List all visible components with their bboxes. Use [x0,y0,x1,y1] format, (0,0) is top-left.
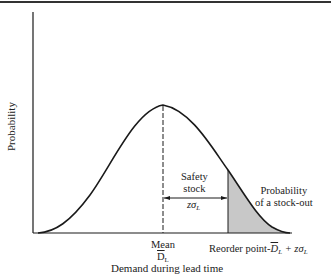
z-sigma-sub: L [196,204,200,212]
reorder-suffix: + zσ [282,243,304,254]
safety-stock-label: Safety stock [181,171,208,195]
mean-text: Mean [151,239,175,251]
reorder-symbol: D [271,243,279,254]
stockout-probability-label: Probability of a stock-out [255,185,313,209]
reorder-point-label: Reorder point-DL + zσL [209,244,308,256]
stockout-line1: Probability [255,185,313,197]
arrowhead-right [221,196,227,200]
normal-distribution-diagram [0,0,331,279]
x-axis-label: Demand during lead time [111,263,223,274]
reorder-suffix-sub: L [304,248,308,256]
reorder-prefix: Reorder point- [209,243,271,254]
mean-symbol-base: D [157,251,165,262]
safety-stock-line1: Safety [181,171,208,183]
arrowhead-left [164,196,170,200]
y-axis-label: Probability [6,102,17,151]
stockout-line2: of a stock-out [255,197,313,209]
z-sigma-label: zσL [187,200,200,212]
safety-stock-line2: stock [181,183,208,195]
z-sigma-base: zσ [187,199,196,210]
